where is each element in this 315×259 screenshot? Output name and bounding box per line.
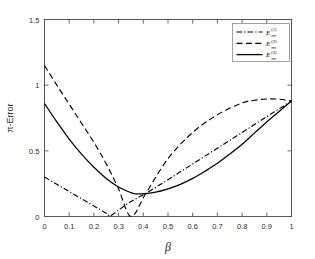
- chart-canvas: 00.10.20.30.40.50.60.70.80.91 00.511.5 β…: [0, 0, 315, 259]
- y-axis-title-group: π-Error: [5, 103, 15, 132]
- legend-box: [233, 24, 290, 62]
- legend-subscript-3: ππ: [271, 56, 276, 61]
- x-tick-label: 0.5: [163, 222, 173, 231]
- x-tick-label: 0.3: [113, 222, 123, 231]
- legend-subscript-2: ππ: [271, 45, 276, 50]
- legend-subscript-1: ππ: [271, 33, 276, 38]
- legend-superscript-3: (3): [271, 50, 277, 55]
- x-tick-label: 1: [289, 222, 293, 231]
- x-tick-label: 0.1: [64, 222, 74, 231]
- y-tick-label: 0: [35, 213, 39, 222]
- y-tick-label: 1.5: [29, 16, 39, 25]
- legend-label-2: E: [265, 40, 271, 48]
- figure-container: 00.10.20.30.40.50.60.70.80.91 00.511.5 β…: [0, 0, 315, 259]
- x-tick-label: 0.7: [212, 222, 222, 231]
- x-tick-label: 0.2: [89, 222, 99, 231]
- legend-superscript-2: (2): [271, 39, 277, 44]
- x-axis-title: β: [164, 240, 171, 254]
- x-tick-label: 0.8: [237, 222, 247, 231]
- x-tick-label: 0.9: [262, 222, 272, 231]
- legend-superscript-1: (1): [271, 27, 277, 32]
- legend[interactable]: E(1)ππE(2)ππE(3)ππ: [233, 24, 290, 62]
- legend-label-3: E: [265, 51, 271, 59]
- y-tick-label: 0.5: [29, 147, 39, 156]
- x-tick-label: 0.4: [138, 222, 148, 231]
- y-tick-label: 1: [35, 81, 39, 90]
- x-tick-label: 0: [42, 222, 46, 231]
- x-tick-label: 0.6: [187, 222, 197, 231]
- legend-label-1: E: [265, 29, 271, 37]
- y-axis-title: π-Error: [5, 103, 15, 132]
